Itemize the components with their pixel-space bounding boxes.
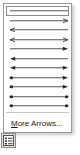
more-arrows-menu-item[interactable]: More Arrows...: [5, 114, 70, 132]
arrow-style-option[interactable]: [6, 92, 69, 102]
arrow-style-option[interactable]: [6, 25, 69, 35]
more-arrows-text: ore Arrows...: [18, 119, 63, 128]
arrow-style-option[interactable]: [6, 16, 69, 26]
arrow-style-option[interactable]: [6, 35, 69, 45]
line-style-icon: [3, 135, 14, 146]
arrow-style-option[interactable]: [6, 101, 69, 111]
arrow-style-option[interactable]: [6, 6, 69, 16]
arrow-style-option[interactable]: [6, 54, 69, 64]
arrow-style-option[interactable]: [6, 63, 69, 73]
line-style-launcher-button[interactable]: [1, 133, 16, 148]
arrow-style-option[interactable]: [6, 73, 69, 83]
arrow-style-option[interactable]: [6, 44, 69, 54]
panel-separator: [6, 112, 69, 113]
more-arrows-label: More Arrows...: [11, 119, 63, 128]
arrow-style-gallery[interactable]: [4, 4, 71, 111]
more-arrows-accelerator: M: [11, 119, 18, 128]
arrow-style-option[interactable]: [6, 82, 69, 92]
arrows-dropdown-panel[interactable]: More Arrows...: [3, 3, 72, 133]
toolbar-shelf-edge: [16, 133, 56, 134]
